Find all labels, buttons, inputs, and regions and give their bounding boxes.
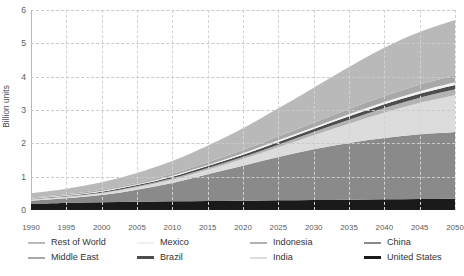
y-axis-tick-label: 5 <box>21 38 26 48</box>
legend-swatch <box>28 257 45 259</box>
legend-label: Rest of World <box>51 238 106 247</box>
legend-swatch <box>250 257 267 259</box>
legend-item[interactable]: India <box>250 251 312 264</box>
legend-label: United States <box>387 253 442 262</box>
gridline-vertical <box>137 10 138 210</box>
x-axis-tick-label: 2025 <box>270 223 288 232</box>
x-axis-tick-label: 2030 <box>305 223 323 232</box>
legend-column: MexicoBrazil <box>137 236 189 266</box>
legend-item[interactable]: Middle East <box>28 251 106 264</box>
y-axis-title-text: Billion units <box>2 85 11 128</box>
x-axis-tick-label: 1990 <box>22 223 40 232</box>
x-axis-tick-label: 2040 <box>376 223 394 232</box>
legend-swatch <box>137 242 154 244</box>
gridline-vertical <box>384 10 385 210</box>
gridline-vertical <box>455 10 456 210</box>
x-axis-tick-label: 2050 <box>446 223 464 232</box>
gridline-vertical <box>243 10 244 210</box>
legend-swatch <box>28 242 45 244</box>
gridline-vertical <box>314 10 315 210</box>
gridline-vertical <box>66 10 67 210</box>
x-axis-tick-label: 2020 <box>234 223 252 232</box>
y-axis-title: Billion units <box>0 0 13 212</box>
legend-item[interactable]: Indonesia <box>250 236 312 249</box>
legend-label: Brazil <box>160 253 183 262</box>
gridline-vertical <box>278 10 279 210</box>
legend-column: Rest of WorldMiddle East <box>28 236 106 266</box>
legend-column: IndonesiaIndia <box>250 236 312 266</box>
legend-item[interactable]: United States <box>364 251 442 264</box>
legend-label: India <box>273 253 293 262</box>
legend-column: ChinaUnited States <box>364 236 442 266</box>
y-axis-tick-label: 1 <box>21 172 26 182</box>
gridline-vertical <box>172 10 173 210</box>
plot-area: 0123456199019952000200520102015202020252… <box>31 10 455 210</box>
legend-item[interactable]: China <box>364 236 442 249</box>
legend-label: Mexico <box>160 238 189 247</box>
y-axis-tick-label: 2 <box>21 138 26 148</box>
y-axis-tick-label: 4 <box>21 72 26 82</box>
chart-legend: Rest of WorldMiddle EastMexicoBrazilIndo… <box>0 236 463 276</box>
x-axis-tick-label: 1995 <box>58 223 76 232</box>
x-axis-tick-label: 2045 <box>411 223 429 232</box>
legend-item[interactable]: Rest of World <box>28 236 106 249</box>
legend-swatch <box>364 256 381 259</box>
x-axis-tick-label: 2005 <box>128 223 146 232</box>
chart-container: Billion units 01234561990199520002005201… <box>0 0 463 232</box>
x-axis-tick-label: 2000 <box>93 223 111 232</box>
gridline-vertical <box>420 10 421 210</box>
x-axis-tick-label: 2015 <box>199 223 217 232</box>
gridline-vertical <box>349 10 350 210</box>
legend-swatch <box>250 242 267 244</box>
y-axis-tick-label: 3 <box>21 105 26 115</box>
legend-swatch <box>364 242 381 244</box>
y-axis-tick-label: 6 <box>21 5 26 15</box>
legend-label: Middle East <box>51 253 99 262</box>
y-axis-tick-label: 0 <box>21 205 26 215</box>
legend-label: China <box>387 238 411 247</box>
legend-label: Indonesia <box>273 238 312 247</box>
x-axis-tick-label: 2035 <box>340 223 358 232</box>
legend-item[interactable]: Mexico <box>137 236 189 249</box>
legend-swatch <box>137 256 154 259</box>
gridline-vertical <box>102 10 103 210</box>
x-axis-tick-label: 2010 <box>164 223 182 232</box>
gridline-vertical <box>208 10 209 210</box>
legend-item[interactable]: Brazil <box>137 251 189 264</box>
